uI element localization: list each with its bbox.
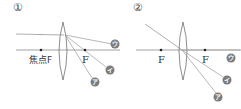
ray-u [65,35,112,44]
focal-label-right: F [82,54,89,65]
svg-text:イ: イ [224,76,230,84]
ray-a [182,50,216,93]
badge-u: ウ [227,54,236,63]
convex-lens [59,22,67,80]
panel-number: ① [13,1,23,14]
badge-a: ア [214,93,223,102]
focal-label-left: F [158,54,165,65]
focal-label-right: F [202,54,209,65]
badge-a: ア [91,78,100,87]
svg-text:イ: イ [107,66,113,74]
badge-u: ウ [111,40,120,49]
focal-point-left [160,49,163,52]
svg-text:ウ: ウ [228,54,234,62]
lens-diagram: ① 焦点F F ウ イ ア ② [0,0,241,109]
badge-i: イ [106,66,115,75]
badge-i: イ [223,76,232,85]
incident-ray [145,24,182,50]
panel-1: ① 焦点F F ウ イ ア [13,1,120,87]
panel-2: ② F F ウ イ ア [133,1,241,102]
svg-text:ア: ア [215,93,221,101]
panel-number: ② [133,1,143,14]
focal-point-left [40,49,43,52]
svg-text:ア: ア [92,78,98,86]
svg-text:ウ: ウ [112,40,118,48]
focal-point-right [84,49,87,52]
focal-label-left: 焦点F [29,54,52,65]
focal-point-right [204,49,207,52]
